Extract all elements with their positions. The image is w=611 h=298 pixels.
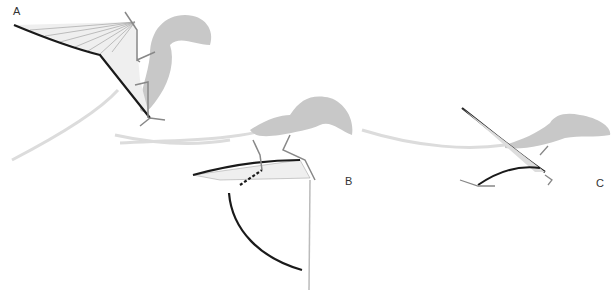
panel-a-body	[140, 15, 211, 112]
panel-b-body	[250, 97, 352, 137]
panel-c-figure	[362, 108, 610, 186]
pterosaur-launch-diagram	[0, 0, 611, 298]
panel-c-body	[505, 114, 610, 149]
panel-c-trail	[362, 130, 505, 147]
panel-c-forelimb	[478, 167, 540, 185]
panel-a-figure	[12, 12, 230, 160]
panel-label-a: A	[13, 5, 20, 17]
panel-b-arc	[229, 193, 302, 270]
panel-a-trajectory	[12, 90, 118, 160]
panel-b-trail	[120, 128, 270, 143]
panel-b-wing-finger	[309, 180, 310, 290]
panel-b-figure	[120, 97, 352, 290]
panel-label-b: B	[345, 175, 352, 187]
panel-label-c: C	[596, 177, 604, 189]
